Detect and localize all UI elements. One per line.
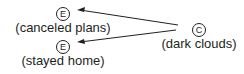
effect-label: (canceled plans) [8, 21, 118, 35]
effect-symbol: E [56, 40, 70, 54]
effect-node-stayed-home: E (stayed home) [8, 36, 118, 68]
effect-node-canceled-plans: E (canceled plans) [8, 3, 118, 35]
cause-label: (dark clouds) [154, 37, 244, 51]
effect-label: (stayed home) [8, 54, 118, 68]
cause-symbol: C [192, 23, 206, 37]
cause-node-dark-clouds: C (dark clouds) [154, 19, 244, 51]
effect-symbol: E [56, 7, 70, 21]
